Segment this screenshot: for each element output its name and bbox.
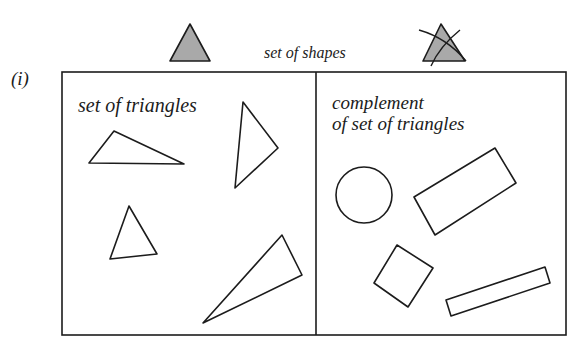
triangles-group — [89, 102, 302, 323]
long-rectangle-shape — [446, 267, 550, 316]
triangle-shape — [235, 102, 278, 188]
square-shape — [374, 245, 433, 307]
non-triangles-group — [336, 148, 550, 316]
triangle-legend-icon — [170, 24, 210, 61]
complement-label-line2: of set of triangles — [332, 113, 464, 134]
triangle-shape — [203, 235, 302, 323]
complement-label-line1: complement — [332, 92, 464, 113]
set-of-triangles-label: set of triangles — [78, 95, 197, 115]
triangle-shape — [89, 131, 184, 164]
triangle-shape — [110, 206, 157, 259]
part-label: (i) — [11, 69, 29, 88]
rectangle-shape — [414, 148, 516, 235]
circle-shape — [336, 167, 392, 223]
crossed-triangle-legend-icon — [419, 24, 466, 66]
complement-label: complement of set of triangles — [332, 92, 464, 134]
universe-label: set of shapes — [264, 45, 346, 61]
